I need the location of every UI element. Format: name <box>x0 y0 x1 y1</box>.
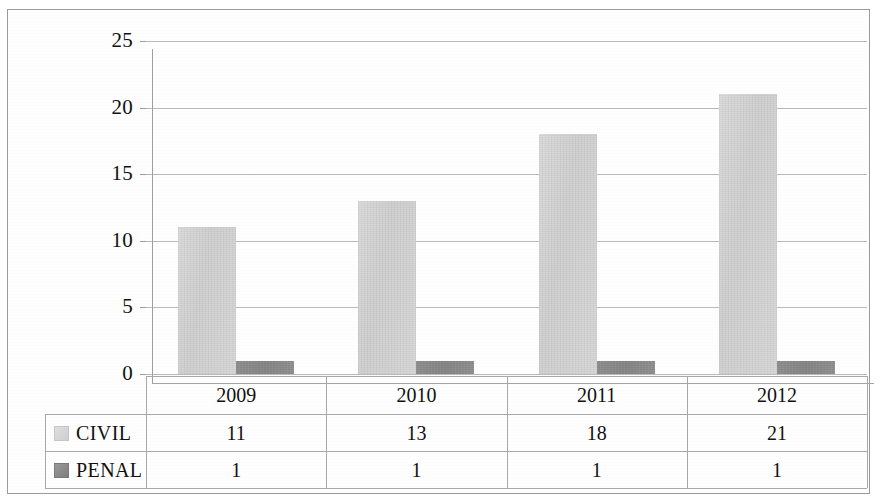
table-cell-civil-2011: 18 <box>507 414 687 451</box>
bar-civil-2012 <box>719 94 777 374</box>
bar-penal-2009 <box>236 361 294 374</box>
table-cell-penal-2011: 1 <box>507 451 687 488</box>
table-hline <box>45 451 867 452</box>
penal-swatch-icon <box>54 463 69 478</box>
table-header-2010: 2010 <box>326 376 506 414</box>
plot-area <box>146 41 867 374</box>
table-cell-civil-2009: 11 <box>146 414 326 451</box>
y-axis-tick-label: 15 <box>63 163 133 184</box>
bar-penal-2011 <box>597 361 655 374</box>
bar-civil-2009 <box>178 227 236 374</box>
data-table: 2009201020112012CIVIL11131821PENAL1111 <box>45 376 867 488</box>
table-header-2009: 2009 <box>146 376 326 414</box>
table-header-2012: 2012 <box>687 376 867 414</box>
legend-label: CIVIL <box>76 423 131 443</box>
table-vline <box>146 376 147 488</box>
chart-frame: 2520151050 2009201020112012CIVIL11131821… <box>7 9 870 494</box>
table-header-2011: 2011 <box>507 376 687 414</box>
bar-penal-2012 <box>777 361 835 374</box>
table-vline <box>687 376 688 488</box>
y-axis-tick-label: 25 <box>63 30 133 51</box>
y-axis-tick-label: 5 <box>63 296 133 317</box>
gridline-0 <box>146 374 867 375</box>
table-vline <box>507 376 508 488</box>
y-axis-tick-label: 10 <box>63 230 133 251</box>
table-vline <box>867 376 868 488</box>
bar-penal-2010 <box>416 361 474 374</box>
table-hline <box>45 414 867 415</box>
legend-row-civil: CIVIL <box>45 414 146 451</box>
bar-civil-2011 <box>539 134 597 374</box>
table-vline <box>326 376 327 488</box>
table-cell-penal-2010: 1 <box>326 451 506 488</box>
table-vline <box>45 414 46 488</box>
bar-civil-2010 <box>358 201 416 374</box>
table-cell-civil-2010: 13 <box>326 414 506 451</box>
legend-row-penal: PENAL <box>45 451 146 488</box>
y-axis-tick-label: 20 <box>63 97 133 118</box>
table-cell-penal-2012: 1 <box>687 451 867 488</box>
table-cell-penal-2009: 1 <box>146 451 326 488</box>
legend-label: PENAL <box>76 460 142 480</box>
table-hline <box>45 488 867 489</box>
civil-swatch-icon <box>54 426 69 441</box>
table-cell-civil-2012: 21 <box>687 414 867 451</box>
y-tick-0 <box>140 374 146 375</box>
